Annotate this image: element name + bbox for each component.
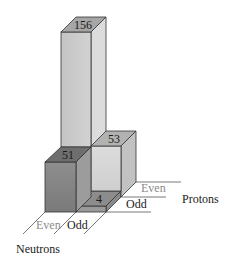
protons-even-label: Even [141, 181, 166, 195]
value-label-53: 53 [108, 132, 120, 146]
value-label-4: 4 [96, 192, 102, 206]
value-label-51: 51 [62, 148, 74, 162]
neutrons-even-label: Even [36, 218, 61, 232]
value-label-156: 156 [74, 18, 92, 32]
chart-canvas: 156 51 53 4 Even Odd Protons Even Odd Ne… [0, 0, 233, 266]
bar-even-even [61, 17, 106, 147]
protons-odd-label: Odd [126, 197, 147, 211]
neutrons-odd-label: Odd [67, 218, 88, 232]
neutrons-axis-title: Neutrons [16, 242, 60, 256]
protons-axis-title: Protons [182, 192, 219, 206]
